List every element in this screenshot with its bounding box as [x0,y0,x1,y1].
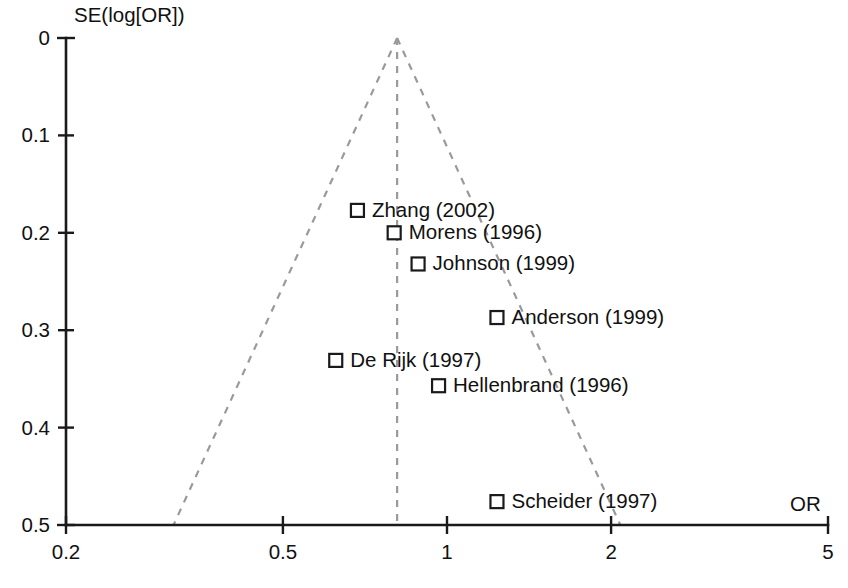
funnel-plot-canvas: 00.10.20.30.40.5 0.20.5125 SE(log[OR]) O… [0,0,848,588]
x-axis-title: OR [790,492,821,515]
data-point: Anderson (1999) [490,305,664,328]
y-axis-tick-label: 0.3 [22,318,51,341]
x-axis-tick-labels: 0.20.5125 [52,540,834,563]
y-axis-tick-label: 0.2 [22,221,51,244]
study-marker [388,226,401,239]
funnel-left-line [174,38,398,525]
data-point: Morens (1996) [388,220,542,243]
y-axis-tick-label: 0 [39,26,50,49]
study-label: De Rijk (1997) [350,348,481,371]
study-marker [412,257,425,270]
study-label: Anderson (1999) [511,305,664,328]
x-axis-tick-label: 5 [822,540,833,563]
study-marker [490,311,503,324]
study-label: Hellenbrand (1996) [453,373,629,396]
data-point-group: Zhang (2002)Morens (1996)Johnson (1999)A… [329,198,664,512]
data-point: Johnson (1999) [412,251,575,274]
study-label: Morens (1996) [409,220,542,243]
x-axis-tick-label: 0.2 [52,540,81,563]
study-marker [432,379,445,392]
axes-group [57,38,828,534]
study-label: Zhang (2002) [372,198,495,221]
data-point: Zhang (2002) [351,198,495,221]
y-axis-tick-labels: 00.10.20.30.40.5 [22,26,51,536]
x-axis-tick-label: 2 [605,540,616,563]
x-axis-tick-label: 1 [441,540,452,563]
study-marker [329,354,342,367]
funnel-boundary-group [174,38,621,525]
funnel-right-line [397,38,620,525]
study-label: Johnson (1999) [433,251,575,274]
y-axis-tick-label: 0.1 [22,123,51,146]
funnel-plot-figure: 00.10.20.30.40.5 0.20.5125 SE(log[OR]) O… [0,0,848,588]
data-point: De Rijk (1997) [329,348,481,371]
y-axis-title: SE(log[OR]) [74,3,185,26]
data-point: Hellenbrand (1996) [432,373,629,396]
y-axis-tick-label: 0.5 [22,513,51,536]
study-label: Scheider (1997) [511,489,657,512]
study-marker [490,495,503,508]
y-axis-tick-label: 0.4 [22,416,51,439]
study-marker [351,204,364,217]
x-axis-tick-label: 0.5 [269,540,298,563]
data-point: Scheider (1997) [490,489,657,512]
